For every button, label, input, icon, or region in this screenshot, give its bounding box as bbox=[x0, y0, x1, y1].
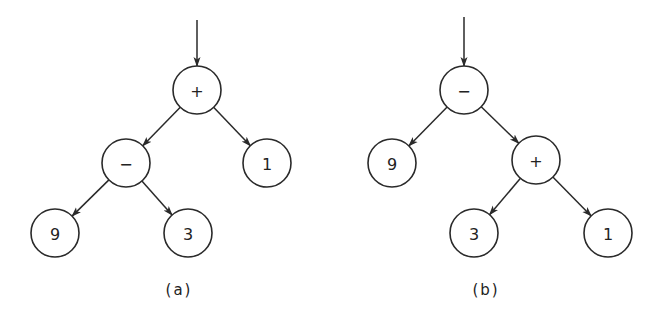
node-label: 1 bbox=[603, 225, 613, 244]
tree-node: 3 bbox=[450, 209, 498, 257]
edge-arrow bbox=[490, 178, 521, 214]
tree-node: 1 bbox=[243, 139, 291, 187]
edge-arrow bbox=[553, 177, 591, 216]
node-label: − bbox=[457, 82, 470, 101]
edge-arrow bbox=[214, 107, 251, 145]
tree-caption: (a) bbox=[166, 281, 193, 299]
edge-arrow bbox=[481, 107, 519, 144]
edge-arrow bbox=[72, 180, 109, 216]
node-label: − bbox=[119, 155, 132, 174]
tree-node: + bbox=[173, 66, 221, 114]
tree-b: −9+31(b) bbox=[368, 17, 632, 299]
tree-node: 3 bbox=[164, 209, 212, 257]
node-label: 1 bbox=[262, 155, 272, 174]
tree-node: 1 bbox=[584, 209, 632, 257]
tree-node: − bbox=[440, 66, 488, 114]
tree-a: +−193(a) bbox=[31, 20, 291, 299]
tree-node: 9 bbox=[368, 139, 416, 187]
node-label: 3 bbox=[183, 225, 193, 244]
edge-arrow bbox=[143, 107, 181, 146]
tree-node: + bbox=[512, 136, 560, 184]
tree-caption: (b) bbox=[472, 281, 499, 299]
tree-node: − bbox=[102, 139, 150, 187]
node-label: 9 bbox=[387, 155, 397, 174]
node-label: 3 bbox=[469, 225, 479, 244]
node-label: + bbox=[529, 152, 542, 171]
edge-arrow bbox=[142, 181, 172, 215]
node-label: 9 bbox=[50, 225, 60, 244]
tree-node: 9 bbox=[31, 209, 79, 257]
edge-arrow bbox=[409, 107, 447, 146]
node-label: + bbox=[190, 82, 203, 101]
expression-tree-diagram: +−193(a) −9+31(b) bbox=[0, 0, 667, 326]
